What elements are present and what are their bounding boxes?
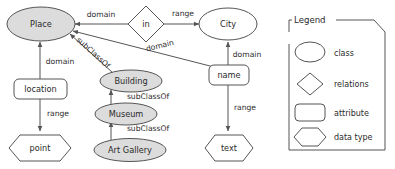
edge-location-point: range bbox=[40, 98, 69, 131]
node-text[interactable]: text bbox=[205, 135, 253, 161]
edge-label-artgallery-museum: subClassOf bbox=[127, 124, 170, 133]
edge-location-place: domain bbox=[40, 42, 74, 79]
diagram-canvas: domain range domain domain range bbox=[0, 0, 395, 169]
edge-label-building-place: subClassOf bbox=[75, 35, 113, 70]
node-building[interactable]: Building bbox=[100, 70, 162, 92]
node-point[interactable]: point bbox=[9, 135, 71, 161]
edge-name-text: range bbox=[228, 84, 256, 131]
legend-item-class: class bbox=[295, 42, 354, 62]
nodes-layer: Place City in Building Museum bbox=[7, 6, 257, 162]
node-art-gallery[interactable]: Art Gallery bbox=[94, 139, 166, 162]
edge-label-name-place: domain bbox=[145, 38, 175, 54]
node-label-in: in bbox=[142, 19, 149, 29]
edge-in-place: domain bbox=[75, 10, 128, 24]
node-label-art-gallery: Art Gallery bbox=[108, 145, 152, 155]
node-name[interactable]: name bbox=[209, 65, 249, 85]
legend-item-datatype: data type bbox=[294, 128, 373, 146]
legend-label-relations: relations bbox=[334, 80, 369, 89]
node-label-location: location bbox=[24, 84, 57, 94]
node-label-place: Place bbox=[30, 19, 52, 29]
legend-label-attribute: attribute bbox=[334, 109, 369, 118]
node-label-building: Building bbox=[114, 76, 147, 86]
legend-item-relations: relations bbox=[297, 73, 369, 95]
edge-label-in-place: domain bbox=[87, 10, 116, 19]
edge-in-city: range bbox=[164, 9, 199, 24]
node-label-text: text bbox=[221, 143, 238, 153]
legend-title: Legend bbox=[294, 15, 326, 25]
diagram-svg: domain range domain domain range bbox=[0, 0, 395, 169]
node-label-museum: Museum bbox=[109, 109, 144, 119]
edge-label-location-place: domain bbox=[46, 57, 75, 66]
edge-label-location-point: range bbox=[47, 109, 69, 118]
node-label-name: name bbox=[217, 70, 240, 80]
legend: Legend class relations attribute data ty… bbox=[289, 15, 385, 150]
node-label-point: point bbox=[30, 143, 52, 153]
node-location[interactable]: location bbox=[14, 79, 67, 99]
edge-name-city: domain bbox=[228, 42, 261, 67]
edge-label-name-text: range bbox=[234, 103, 256, 112]
node-place[interactable]: Place bbox=[7, 7, 75, 41]
edge-label-museum-building: subClassOf bbox=[127, 92, 170, 101]
edge-label-name-city: domain bbox=[233, 50, 262, 59]
node-museum[interactable]: Museum bbox=[95, 103, 157, 125]
legend-label-datatype: data type bbox=[334, 133, 373, 142]
node-label-city: City bbox=[220, 19, 236, 29]
node-in[interactable]: in bbox=[128, 6, 164, 42]
edge-label-in-city: range bbox=[172, 9, 194, 18]
node-city[interactable]: City bbox=[199, 8, 257, 40]
legend-item-attribute: attribute bbox=[295, 104, 369, 121]
legend-label-class: class bbox=[334, 49, 354, 58]
